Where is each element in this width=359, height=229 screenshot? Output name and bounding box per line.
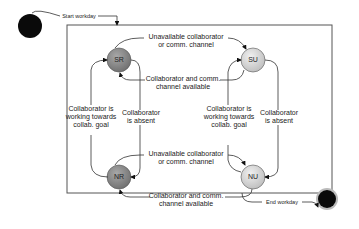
state-su-label: SU: [243, 56, 263, 64]
transition-sr-nr-label: Collaborator is absent: [121, 109, 161, 125]
state-nr-label: NR: [109, 173, 129, 181]
start-workday-label: Start workday: [60, 13, 98, 19]
transition-nr-sr-label: Collaborator is working towards collab. …: [60, 105, 122, 129]
end-node: [318, 190, 336, 208]
end-workday-label: End workday: [262, 199, 302, 205]
transition-nu-nr-label: Collaborator and comm. channel available: [146, 192, 226, 208]
state-sr-label: SR: [109, 56, 129, 64]
start-node: [18, 14, 42, 38]
state-nu-label: NU: [243, 173, 263, 181]
transition-sr-su-label: Unavailable collaborator or comm. channe…: [140, 33, 232, 49]
transition-nr-nu-label: Unavailable collaborator or comm. channe…: [140, 150, 232, 166]
transition-su-nu-label: Collaborator is absent: [259, 109, 299, 125]
transition-nu-su-label: Collaborator is working towards collab. …: [198, 105, 260, 129]
transition-su-sr-label: Collaborator and comm. channel available: [143, 75, 223, 91]
